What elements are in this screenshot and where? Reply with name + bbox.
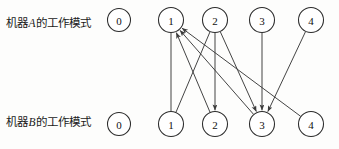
state-node-label: 3 [259, 15, 265, 27]
state-node-label: 0 [116, 119, 122, 131]
state-node-b-4[interactable]: 4 [299, 112, 324, 137]
state-node-b-1[interactable]: 1 [159, 112, 184, 137]
transition-edge-b4-to-a1 [182, 28, 301, 116]
transition-edge-a4-to-b3 [268, 32, 306, 112]
state-node-label: 4 [308, 119, 314, 131]
state-node-a-4[interactable]: 4 [299, 8, 324, 33]
state-node-a-3[interactable]: 3 [250, 8, 275, 33]
state-node-label: 3 [259, 119, 265, 131]
state-node-label: 1 [168, 15, 174, 27]
transition-diagram-canvas: 0123401234 [0, 0, 339, 149]
state-node-label: 0 [116, 15, 122, 27]
state-node-a-2[interactable]: 2 [203, 8, 228, 33]
transition-edge-b3-to-a1 [180, 30, 253, 114]
transition-edge-a2-to-b3 [220, 32, 256, 112]
state-node-b-0[interactable]: 0 [108, 113, 131, 136]
state-node-a-1[interactable]: 1 [159, 8, 184, 33]
state-node-b-3[interactable]: 3 [250, 112, 275, 137]
node-layer: 0123401234 [108, 8, 324, 137]
state-node-b-2[interactable]: 2 [203, 112, 228, 137]
state-node-label: 1 [168, 119, 174, 131]
state-node-a-0[interactable]: 0 [108, 9, 131, 32]
state-node-label: 2 [212, 119, 218, 131]
state-node-label: 4 [308, 15, 314, 27]
state-node-label: 2 [212, 15, 218, 27]
diagram-screenshot: 机器A的工作模式 机器B的工作模式 0123401234 [0, 0, 339, 149]
edge-layer [171, 28, 305, 116]
